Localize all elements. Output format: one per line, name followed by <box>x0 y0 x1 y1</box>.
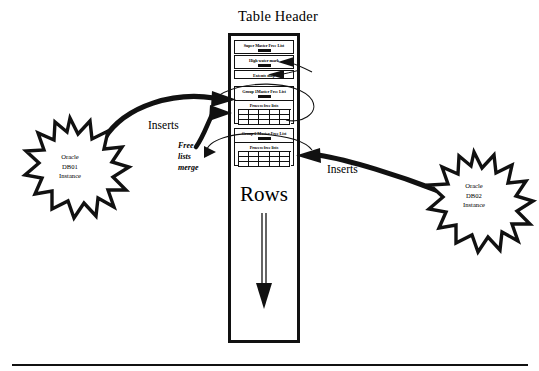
oracle-db02-line1: Oracle <box>439 181 509 191</box>
free-lists-merge-line3: merge <box>178 163 198 174</box>
oracle-db02-label: Oracle DB02 Instance <box>439 181 509 210</box>
oracle-db02-line3: Instance <box>439 200 509 210</box>
oracle-db01-line1: Oracle <box>35 152 105 162</box>
free-lists-merge-label: Free lists merge <box>178 141 198 173</box>
rows-down-arrow-icon <box>256 213 272 309</box>
high-water-mark-arrow <box>278 57 312 72</box>
extents-map-arrow <box>268 70 300 79</box>
free-list-loop-upper <box>214 84 314 121</box>
oracle-db02-line2: DB02 <box>439 191 509 201</box>
insert-arrow-left-secondary <box>196 105 232 147</box>
insert-arrow-right <box>296 148 436 190</box>
free-lists-merge-line1: Free <box>178 141 198 152</box>
inserts-label-left: Inserts <box>148 119 179 131</box>
oracle-db01-line2: DB01 <box>35 162 105 172</box>
oracle-db01-label: Oracle DB01 Instance <box>35 152 105 181</box>
oracle-db01-line3: Instance <box>35 171 105 181</box>
inserts-label-right: Inserts <box>327 163 358 175</box>
free-lists-merge-line2: lists <box>178 152 198 163</box>
free-list-merge-loop <box>204 134 312 158</box>
diagram-canvas: Table Header Super Master Free List High… <box>0 0 539 371</box>
